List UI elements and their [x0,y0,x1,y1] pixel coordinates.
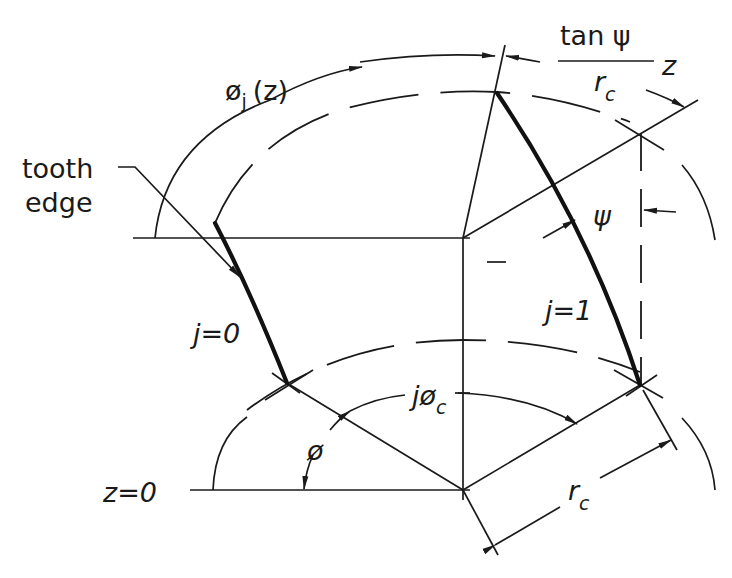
label-rc-fraction: rc [594,66,616,105]
psi-arrow-left [543,220,575,238]
cutter-geometry-diagram: øj(z) tooth edge tan ψ z rc ψ j=0 j=1 jø… [0,0,732,578]
psi-arrow-right [644,210,676,212]
upper-radius-j1-projection [463,100,698,238]
label-rc: rc [568,475,590,514]
bottom-plane [190,238,715,555]
upper-outer-arc-right [682,165,715,240]
label-j1: j=1 [541,295,592,326]
tooth-edge-leader [118,167,240,277]
phi-angle-arc-upper [330,411,350,430]
rc-extension-j1 [643,390,677,450]
phi-j-z-arc-right [360,55,495,62]
label-z-fraction: z [661,50,677,81]
rc-dimension-line-right [600,440,671,478]
rc-extension-center [463,490,498,555]
tooth-edge-j0 [215,223,287,383]
label-tooth-edge-line1: tooth [22,153,93,184]
rc-dimension-line-left [495,507,560,545]
label-tan-psi: tan ψ [560,20,631,51]
label-j-phi-c: jøc [408,380,447,418]
upper-radius-to-rotated-point [463,45,505,238]
upper-cutter-circle-dashed [215,91,630,223]
lower-outer-arc-left [213,417,247,490]
tan-psi-dimension-arrow [646,90,684,107]
j-phi-c-angle-arc-right [458,393,577,424]
tooth-edge-j1 [497,93,640,385]
label-tooth-edge-line2: edge [25,187,93,218]
label-z0: z=0 [102,477,157,508]
j-phi-c-angle-arc-left [350,395,405,411]
label-phi: ø [306,435,324,466]
tan-psi-arc-tail [506,56,540,62]
lower-outer-arc-right [682,418,715,490]
lower-radius-j1 [463,385,640,490]
label-j0: j=0 [189,318,240,349]
label-psi: ψ [593,200,612,231]
